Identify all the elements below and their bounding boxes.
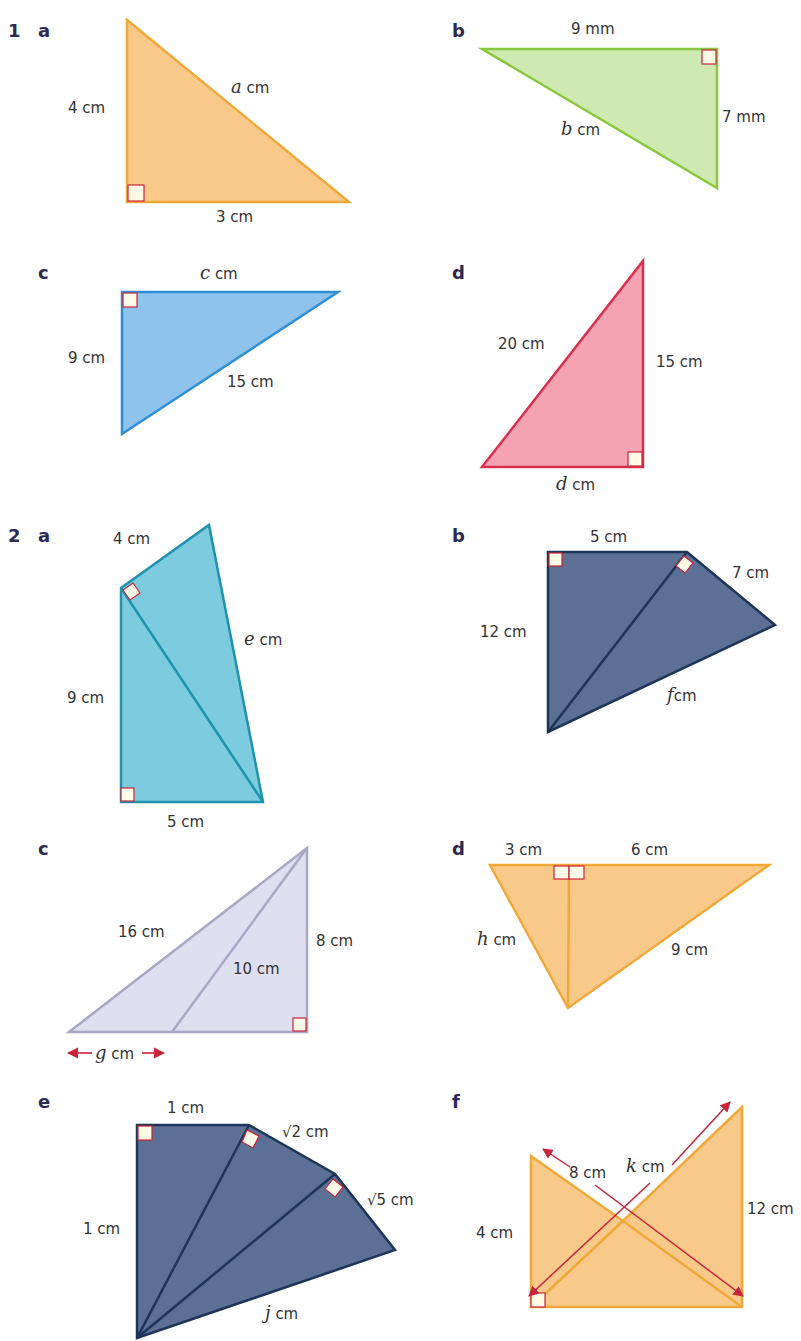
side-label: 7 mm [722,110,766,125]
part-label-2c: c [38,840,49,858]
diagonal-label: 8 cm [569,1166,606,1181]
side-label: 15 cm [656,355,703,370]
triangle-1a [127,20,349,202]
side-label: 4 cm [68,101,105,116]
part-label-1c: c [38,264,49,282]
side-label: 12 cm [480,625,527,640]
side-label: √2 cm [282,1125,329,1140]
side-label: 4 cm [476,1226,513,1241]
side-label: 7 cm [732,566,769,581]
side-label: 3 cm [216,210,253,225]
side-label: 10 cm [233,962,280,977]
question-number-2: 2 [8,527,21,545]
side-label: 5 cm [590,530,627,545]
hypotenuse-label: 15 cm [227,375,274,390]
arrow-up-left-icon [543,1149,570,1167]
triangle-1c [122,292,338,434]
figure-2c [68,848,307,1053]
side-label: fcm [667,686,697,704]
right-angle-marker [628,452,642,466]
right-angle-marker [531,1293,545,1307]
right-angle-marker [121,788,134,801]
right-angle-marker [569,866,584,879]
side-label: 1 cm [167,1101,204,1116]
side-label: d cm [556,475,595,493]
side-label: 12 cm [747,1202,794,1217]
part-label-2a: a [38,527,50,545]
side-label: √5 cm [367,1193,414,1208]
right-angle-marker [554,866,569,879]
figure-2a [121,525,263,802]
side-label: 9 mm [571,22,615,37]
base-variable-label: g cm [95,1044,134,1062]
right-angle-marker [702,50,716,64]
side-label: 1 cm [83,1222,120,1237]
side-label: 4 cm [113,532,150,547]
diagonal-label: k cm [626,1157,665,1175]
part-label-2f: f [452,1093,460,1111]
hypotenuse-label: a cm [231,78,269,96]
right-angle-marker [128,185,144,201]
side-label: e cm [244,630,282,648]
part-label-2e: e [38,1093,50,1111]
triangle-1d [482,261,643,467]
right-angle-marker [293,1018,306,1031]
side-label: 8 cm [316,934,353,949]
side-label: 6 cm [631,843,668,858]
hypotenuse-label: 20 cm [498,337,545,352]
side-label: h cm [477,930,516,948]
part-label-1d: d [452,264,465,282]
side-label: j cm [265,1304,298,1322]
hypotenuse-label: b cm [561,120,600,138]
side-label: c cm [200,264,238,282]
figure-2d [490,865,769,1008]
right-angle-marker [549,553,562,566]
side-label: 16 cm [118,925,165,940]
side-label: 3 cm [505,843,542,858]
question-number-1: 1 [8,22,21,40]
right-angle-marker [138,1126,152,1140]
side-label: 5 cm [167,815,204,830]
side-label: 9 cm [68,351,105,366]
part-label-1a: a [38,22,50,40]
part-label-1b: b [452,22,465,40]
right-angle-marker [123,293,137,307]
triangle-1b [482,49,717,188]
part-label-2d: d [452,840,465,858]
side-label: 9 cm [67,691,104,706]
diagram-canvas [0,0,801,1341]
part-label-2b: b [452,527,465,545]
side-label: 9 cm [671,943,708,958]
figure-2f [529,1102,743,1307]
